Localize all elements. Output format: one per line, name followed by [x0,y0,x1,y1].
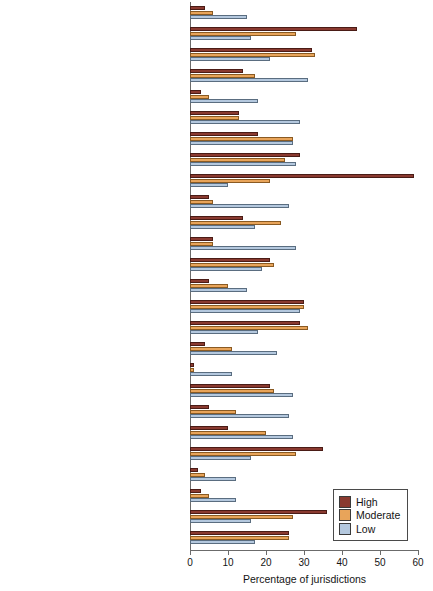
bar-low [190,204,289,208]
bar-high [190,300,304,304]
bar-moderate [190,389,274,393]
bar-high [190,342,205,346]
bar-moderate [190,368,194,372]
bar-high [190,111,239,115]
legend-item-moderate: Moderate [339,509,400,521]
bar-moderate [190,53,315,57]
bar-low [190,498,236,502]
bar-moderate [190,452,296,456]
bar-moderate [190,536,289,540]
bar-high [190,510,327,514]
x-tick [342,550,343,555]
bar-low [190,15,247,19]
plot-area [190,2,418,548]
bar-high [190,384,270,388]
bar-low [190,477,236,481]
bar-low [190,36,251,40]
bar-low [190,288,247,292]
chart-legend: High Moderate Low [333,489,408,541]
bar-moderate [190,494,209,498]
bar-moderate [190,74,255,78]
bar-high [190,90,201,94]
bar-chart: 0102030405060 Percentage of jurisdiction… [0,0,433,591]
bar-high [190,426,228,430]
bar-moderate [190,32,296,36]
bar-high [190,174,414,178]
bar-moderate [190,515,293,519]
bar-moderate [190,179,270,183]
bar-low [190,414,289,418]
bar-high [190,27,357,31]
x-tick [304,550,305,555]
bar-low [190,99,258,103]
legend-swatch-high-icon [339,496,351,508]
bar-high [190,48,312,52]
bar-high [190,279,209,283]
legend-label-low: Low [356,523,375,535]
x-tick-label: 20 [260,557,271,568]
bar-moderate [190,158,285,162]
x-tick [190,550,191,555]
bar-moderate [190,242,213,246]
bar-high [190,405,209,409]
bar-low [190,393,293,397]
x-tick-label: 60 [412,557,423,568]
bar-moderate [190,11,213,15]
bar-low [190,372,232,376]
legend-swatch-moderate-icon [339,509,351,521]
x-tick-label: 10 [222,557,233,568]
bar-low [190,78,308,82]
x-tick-label: 30 [298,557,309,568]
x-tick [380,550,381,555]
bar-moderate [190,263,274,267]
bar-moderate [190,200,213,204]
bar-high [190,69,243,73]
x-tick-label: 50 [374,557,385,568]
bar-low [190,330,258,334]
bar-high [190,132,258,136]
bar-low [190,435,293,439]
legend-label-high: High [356,496,378,508]
bar-high [190,363,194,367]
bar-high [190,447,323,451]
bar-high [190,216,243,220]
bar-low [190,351,277,355]
bar-low [190,141,293,145]
bar-moderate [190,95,209,99]
bar-low [190,456,251,460]
bar-moderate [190,431,266,435]
bar-high [190,6,205,10]
bar-moderate [190,116,239,120]
bar-low [190,519,251,523]
bar-moderate [190,137,293,141]
legend-item-low: Low [339,523,400,535]
bar-moderate [190,305,304,309]
bar-low [190,540,255,544]
bar-moderate [190,221,281,225]
bar-low [190,120,300,124]
bar-high [190,258,270,262]
bar-high [190,153,300,157]
x-tick [418,550,419,555]
bar-low [190,225,255,229]
bar-low [190,183,228,187]
bar-high [190,321,300,325]
bar-moderate [190,347,232,351]
x-tick-label: 0 [187,557,193,568]
bar-low [190,162,296,166]
bar-high [190,195,209,199]
bar-high [190,489,201,493]
bar-moderate [190,473,205,477]
legend-label-moderate: Moderate [356,509,400,521]
x-tick [228,550,229,555]
x-axis-title: Percentage of jurisdictions [190,573,419,585]
bar-moderate [190,326,308,330]
bar-high [190,468,198,472]
bar-high [190,531,289,535]
bar-low [190,309,300,313]
x-tick-label: 40 [336,557,347,568]
bar-high [190,237,213,241]
legend-item-high: High [339,496,400,508]
bar-low [190,246,296,250]
bar-low [190,267,262,271]
